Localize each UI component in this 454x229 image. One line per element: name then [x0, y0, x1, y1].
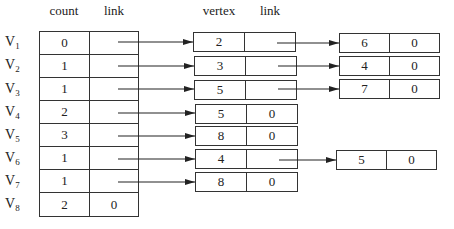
pointer-arrows — [0, 0, 454, 229]
